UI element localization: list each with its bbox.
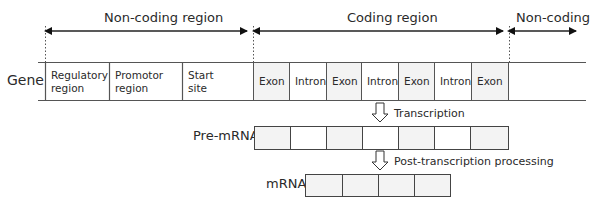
mrna-exon-2 — [342, 174, 379, 197]
exon-label: Exon — [477, 75, 508, 88]
exon-label: Exon — [404, 75, 434, 88]
start-line1: Start — [188, 69, 253, 82]
post-processing-label: Post-transcription processing — [394, 155, 554, 168]
mrna-exon-4 — [414, 174, 451, 197]
pre-mrna-intron-1 — [290, 126, 327, 150]
promotor-line2: region — [115, 82, 182, 95]
gene-intron-2: Intron — [362, 63, 398, 100]
intron-label: Intron — [367, 75, 398, 88]
exon-label: Exon — [259, 75, 289, 88]
non-coding-right-label: Non-coding — [516, 11, 590, 24]
gene-exon-2: Exon — [326, 63, 362, 100]
gene-label: Gene — [7, 74, 44, 87]
pre-mrna-label: Pre-mRNA — [193, 129, 259, 142]
exon-label: Exon — [332, 75, 361, 88]
non-coding-region-label: Non-coding region — [104, 11, 223, 24]
pre-mrna-exon-3 — [398, 126, 435, 150]
pre-mrna-exon-1 — [254, 126, 291, 150]
regulatory-line2: region — [51, 82, 109, 95]
processing-arrow-icon — [372, 151, 388, 170]
transcription-label: Transcription — [394, 107, 465, 120]
gene-exon-4: Exon — [471, 63, 509, 100]
mrna-label: mRNA — [266, 177, 306, 190]
intron-label: Intron — [295, 75, 326, 88]
pre-mrna-exon-2 — [326, 126, 363, 150]
mrna-exon-1 — [305, 174, 343, 197]
gene-intron-1: Intron — [290, 63, 326, 100]
start-line2: site — [188, 82, 253, 95]
coding-region-label: Coding region — [347, 11, 438, 24]
mrna-exon-3 — [378, 174, 415, 197]
pre-mrna-intron-3 — [434, 126, 471, 150]
promotor-line1: Promotor — [115, 69, 182, 82]
regulatory-region-cell: Regulatory region — [46, 63, 109, 100]
gene-exon-1: Exon — [253, 63, 290, 100]
intron-label: Intron — [440, 75, 471, 88]
transcription-arrow-icon — [372, 103, 388, 122]
start-site-cell: Start site — [183, 63, 253, 100]
pre-mrna-exon-4 — [470, 126, 509, 150]
pre-mrna-intron-2 — [362, 126, 399, 150]
gene-intron-3: Intron — [435, 63, 471, 100]
promotor-region-cell: Promotor region — [110, 63, 182, 100]
gene-exon-3: Exon — [398, 63, 435, 100]
regulatory-line1: Regulatory — [51, 69, 109, 82]
